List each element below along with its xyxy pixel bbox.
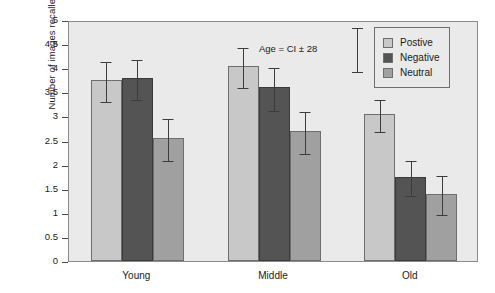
legend-label: Negative bbox=[400, 53, 439, 63]
error-bar bbox=[106, 62, 107, 102]
legend: PostiveNegativeNeutral bbox=[374, 27, 450, 88]
y-axis-tick-label: 0.5 bbox=[45, 231, 58, 242]
error-bar-cap-upper bbox=[436, 176, 447, 177]
y-axis-tick-label: 3.5 bbox=[45, 86, 58, 97]
y-axis-tick-label: 2.5 bbox=[45, 135, 58, 146]
y-axis-tick-label: 0 bbox=[53, 255, 58, 266]
ci-reference-errorbar bbox=[352, 28, 363, 73]
error-bar bbox=[380, 100, 381, 132]
legend-swatch-neutral bbox=[383, 68, 393, 78]
error-bar-cap-upper bbox=[101, 62, 112, 63]
error-bar bbox=[305, 112, 306, 153]
error-bar bbox=[168, 119, 169, 161]
legend-swatch-postive bbox=[383, 38, 393, 48]
y-axis-tick-label: 1 bbox=[53, 207, 58, 218]
y-axis-tick-label: 5 bbox=[53, 14, 58, 25]
error-bar-cap-lower bbox=[300, 154, 311, 155]
error-bar-cap-upper bbox=[132, 60, 143, 61]
y-axis-tick-label: 1.5 bbox=[45, 183, 58, 194]
error-bar bbox=[243, 48, 244, 88]
bar-young-postive bbox=[91, 80, 122, 261]
error-bar-cap-upper bbox=[300, 112, 311, 113]
error-bar bbox=[411, 161, 412, 197]
y-axis-tick-label: 4.5 bbox=[45, 38, 58, 49]
error-bar bbox=[137, 60, 138, 100]
x-axis-label-old: Old bbox=[402, 270, 418, 281]
error-bar-cap-lower bbox=[238, 88, 249, 89]
y-axis-tick-label: 2 bbox=[53, 159, 58, 170]
error-bar-cap-upper bbox=[269, 68, 280, 69]
error-bar-cap-lower bbox=[101, 102, 112, 103]
legend-item-negative: Negative bbox=[383, 50, 439, 65]
bar-young-negative bbox=[122, 78, 153, 261]
bar-middle-postive bbox=[228, 66, 259, 261]
error-bar-cap-upper bbox=[374, 100, 385, 101]
error-bar-cap-lower bbox=[405, 196, 416, 197]
y-axis-tick-mark bbox=[62, 262, 68, 263]
x-axis-label-middle: Middle bbox=[258, 270, 287, 281]
error-bar-cap-upper bbox=[405, 161, 416, 162]
y-axis-tick-label: 4 bbox=[53, 62, 58, 73]
x-axis-label-young: Young bbox=[122, 270, 150, 281]
y-axis-tick-label: 3 bbox=[53, 110, 58, 121]
ci-annotation-label: Age = CI ± 28 bbox=[259, 43, 317, 54]
legend-label: Neutral bbox=[400, 68, 432, 78]
error-bar bbox=[274, 68, 275, 111]
error-bar-cap-lower bbox=[132, 100, 143, 101]
error-bar-cap-lower bbox=[269, 111, 280, 112]
bar-middle-negative bbox=[259, 87, 290, 261]
error-bar-cap-lower bbox=[436, 215, 447, 216]
legend-item-neutral: Neutral bbox=[383, 65, 439, 80]
plot-area: Age = CI ± 28 PostiveNegativeNeutral bbox=[68, 21, 478, 262]
legend-label: Postive bbox=[400, 38, 433, 48]
error-bar-cap-lower bbox=[163, 161, 174, 162]
bar-old-postive bbox=[364, 114, 395, 261]
legend-swatch-negative bbox=[383, 53, 393, 63]
error-bar-cap-upper bbox=[163, 119, 174, 120]
error-bar bbox=[442, 176, 443, 215]
error-bar-cap-upper bbox=[238, 48, 249, 49]
legend-item-postive: Postive bbox=[383, 35, 439, 50]
bar-chart-figure: Number of images recalled 54.543.532.521… bbox=[0, 0, 495, 293]
error-bar-cap-lower bbox=[374, 132, 385, 133]
